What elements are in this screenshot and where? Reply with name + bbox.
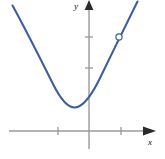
x-axis-label: x [148, 138, 152, 147]
open-circle-hole-icon [116, 34, 122, 40]
x-axis-arrow-icon [143, 127, 156, 136]
parabola-curve [13, 2, 138, 108]
y-axis-arrow-icon [85, 0, 94, 10]
plot-canvas [0, 0, 165, 159]
graph-figure: y x [0, 0, 165, 159]
y-axis-label: y [74, 2, 78, 11]
